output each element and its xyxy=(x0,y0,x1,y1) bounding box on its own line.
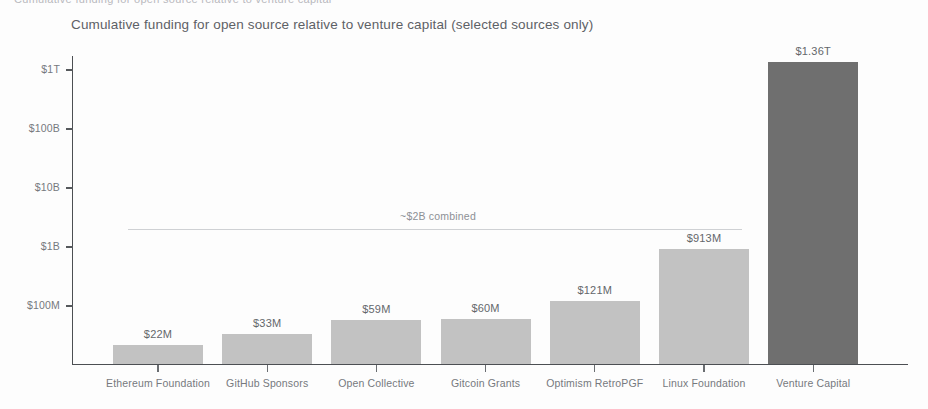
y-axis-tick xyxy=(66,246,73,247)
bar xyxy=(768,62,858,364)
bar-value-label: $22M xyxy=(88,328,228,340)
bar-value-label: $33M xyxy=(197,317,337,329)
bar-value-label: $913M xyxy=(634,232,774,244)
x-axis-tick xyxy=(157,365,158,372)
x-axis-tick xyxy=(376,365,377,372)
x-axis-tick xyxy=(813,365,814,372)
chart-title: Cumulative funding for open source relat… xyxy=(71,17,593,32)
x-axis-category-label: Venture Capital xyxy=(740,377,886,389)
bar-value-label: $121M xyxy=(525,284,665,296)
bar xyxy=(550,301,640,364)
x-axis-tick xyxy=(703,365,704,372)
y-axis-tick xyxy=(66,69,73,70)
scan-edge-text: Cumulative funding for open source relat… xyxy=(14,0,332,5)
y-axis-label: $100M xyxy=(0,299,60,311)
annotation-label: ~$2B combined xyxy=(328,210,548,222)
y-axis-label: $10B xyxy=(0,181,60,193)
bar-value-label: $1.36T xyxy=(743,45,883,57)
y-axis-line xyxy=(72,56,73,365)
bar xyxy=(222,334,312,364)
scan-edge-artifact: Cumulative funding for open source relat… xyxy=(0,0,928,7)
y-axis-tick xyxy=(66,187,73,188)
x-axis-tick xyxy=(594,365,595,372)
bar xyxy=(441,319,531,364)
y-axis-label: $1B xyxy=(0,240,60,252)
annotation-rule xyxy=(128,229,742,230)
bar xyxy=(331,320,421,364)
bar-chart: Cumulative funding for open source relat… xyxy=(0,0,928,409)
y-axis-label: $1T xyxy=(0,63,60,75)
x-axis-tick xyxy=(485,365,486,372)
x-axis-tick xyxy=(267,365,268,372)
y-axis-tick xyxy=(66,305,73,306)
y-axis-label: $100B xyxy=(0,122,60,134)
bar xyxy=(113,345,203,364)
bar-value-label: $60M xyxy=(416,302,556,314)
bar xyxy=(659,249,749,364)
y-axis-tick xyxy=(66,128,73,129)
